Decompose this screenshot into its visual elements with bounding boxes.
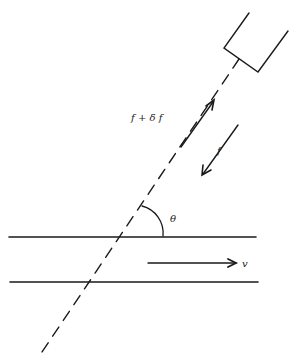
transducer-probe [224,13,288,72]
velocity-arrow [148,259,236,267]
velocity-label: v [242,258,248,269]
reflected-frequency-label: f + δ f [130,112,165,123]
angle-arc [142,206,163,236]
reflected-frequency-arrow [181,100,214,147]
doppler-diagram: f + δ f f θ v [0,0,301,361]
angle-label: θ [170,213,176,224]
